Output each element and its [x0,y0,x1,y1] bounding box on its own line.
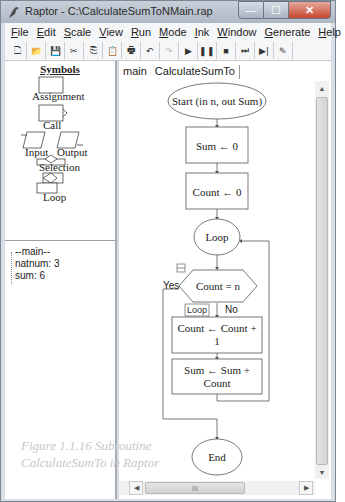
pen-icon[interactable]: ✎ [274,42,293,59]
caption-line-2: CalculateSumTo in Raptor [21,454,159,471]
svg-text:Count ← Count +: Count ← Count + [177,322,256,334]
symbol-label-call: Call [43,119,61,131]
stop-icon[interactable]: ■ [217,42,236,59]
collapse-toggle-icon[interactable] [177,264,185,272]
step-into-icon[interactable]: ▶| [255,42,274,59]
assignment-sum-0[interactable]: Sum ← 0 [186,127,248,163]
title-bar[interactable]: Raptor - C:\CalculateSumToNMain.rap — ☐ … [1,1,335,23]
svg-text:Start (in n, out Sum): Start (in n, out Sum) [172,95,262,108]
main-pane: main CalculateSumTo [119,61,331,499]
loop-symbol-icon[interactable] [37,173,63,193]
menu-file[interactable]: File [7,26,33,38]
play-icon[interactable]: ▶ [179,42,198,59]
menu-scale[interactable]: Scale [60,26,96,38]
yes-label: Yes [163,280,179,291]
menu-run[interactable]: Run [127,26,155,38]
symbol-label-loop: Loop [43,191,66,203]
minimize-button[interactable]: — [238,1,264,19]
svg-text:1: 1 [214,335,220,347]
menu-bar: FileEditScaleViewRunModeInkWindowGenerat… [5,23,331,41]
open-folder-icon[interactable]: 📂 [27,42,46,59]
raptor-logo-icon [7,5,21,19]
loop-condition[interactable]: Count = n [179,270,257,302]
menu-generate[interactable]: Generate [260,26,314,38]
loop-node[interactable]: Loop [194,219,240,255]
horizontal-scrollbar[interactable]: ◀ III ▶ [119,481,315,495]
maximize-button[interactable]: ☐ [264,1,289,19]
no-label: No [225,304,238,315]
menu-mode[interactable]: Mode [155,26,191,38]
menu-view[interactable]: View [95,26,127,38]
var-natnum[interactable]: natnum: 3 [15,258,59,269]
scroll-up-arrow-icon[interactable]: ▲ [315,81,329,95]
symbols-panel: Symbols [5,61,115,241]
copy-icon[interactable]: ⎘ [84,42,103,59]
save-icon[interactable]: 💾 [46,42,65,59]
window-title: Raptor - C:\CalculateSumToNMain.rap [25,5,213,17]
scroll-right-arrow-icon[interactable]: ▶ [299,481,313,495]
assignment-count-0[interactable]: Count ← 0 [186,173,248,209]
symbol-label-output: Output [57,146,88,158]
cut-icon[interactable]: ✂ [65,42,84,59]
svg-text:Sum ← Sum +: Sum ← Sum + [184,364,250,376]
undo-icon[interactable]: ↶ [141,42,160,59]
tab-bar: main CalculateSumTo [119,61,331,79]
svg-text:Count = n: Count = n [196,280,241,292]
horizontal-scroll-thumb[interactable]: III [145,482,245,494]
svg-text:Count: Count [204,377,231,389]
new-file-icon[interactable]: 🗋 [8,42,27,59]
print-icon[interactable]: 🖶 [122,42,141,59]
menu-edit[interactable]: Edit [33,26,60,38]
scroll-down-arrow-icon[interactable]: ▼ [315,465,329,479]
vertical-scroll-thumb[interactable] [316,97,328,465]
paste-icon[interactable]: 📋 [103,42,122,59]
tab-main[interactable]: main [119,65,151,79]
assignment-sum-accumulate[interactable]: Sum ← Sum + Count [172,359,262,394]
symbol-label-input: Input [25,146,48,158]
toolbar: 🗋📂💾✂⎘📋🖶↶↷▶❚❚■⏭▶|✎ [5,41,331,61]
symbol-label-assignment: Assignment [32,90,85,102]
svg-text:Loop: Loop [187,305,207,315]
start-terminal[interactable]: Start (in n, out Sum) [168,83,266,119]
pause-icon[interactable]: ❚❚ [198,42,217,59]
loop-tag: Loop [185,304,209,316]
svg-text:Count ← 0: Count ← 0 [193,186,242,198]
step-icon[interactable]: ⏭ [236,42,255,59]
assignment-count-increment[interactable]: Count ← Count + 1 [172,317,262,353]
menu-window[interactable]: Window [213,26,260,38]
redo-icon[interactable]: ↷ [160,42,179,59]
svg-text:Sum ← 0: Sum ← 0 [196,140,239,152]
svg-text:Loop: Loop [205,231,229,243]
caption-line-1: Figure 1.1.16 Subroutine [21,437,159,454]
menu-ink[interactable]: Ink [191,26,214,38]
flowchart-canvas[interactable]: Start (in n, out Sum) Sum ← 0 Count ← 0 … [119,81,315,479]
scroll-left-arrow-icon[interactable]: ◀ [129,481,143,495]
var-sum[interactable]: sum: 6 [15,270,45,281]
left-pane: Symbols [5,61,117,499]
close-button[interactable]: ✕ [289,1,331,19]
figure-caption: Figure 1.1.16 Subroutine CalculateSumTo … [21,437,159,471]
end-terminal[interactable]: End [192,439,242,475]
menu-help[interactable]: Help [314,26,345,38]
svg-text:End: End [208,451,226,463]
tab-calculatesumto[interactable]: CalculateSumTo [151,65,240,79]
var-scope-main[interactable]: --main-- [15,246,50,257]
vertical-scrollbar[interactable]: ▲ ▼ [315,81,329,479]
symbol-label-selection: Selection [39,161,80,173]
